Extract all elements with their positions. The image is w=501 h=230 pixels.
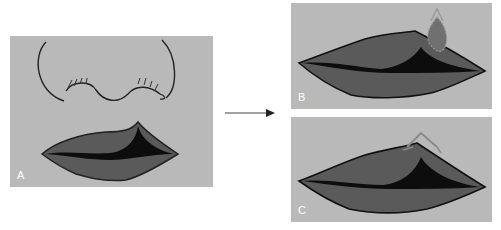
panel-label: B (298, 91, 305, 103)
panel-a: A (10, 36, 213, 187)
lips-reconstructed-illustration (291, 117, 492, 222)
lips-outlined-illustration (291, 3, 492, 109)
nose-lips-illustration (10, 36, 213, 187)
panel-c: C (291, 117, 492, 222)
panel-b: B (291, 3, 492, 109)
panel-label: A (17, 169, 24, 181)
panel-label: C (298, 204, 306, 216)
arrow-right-icon (222, 106, 278, 120)
